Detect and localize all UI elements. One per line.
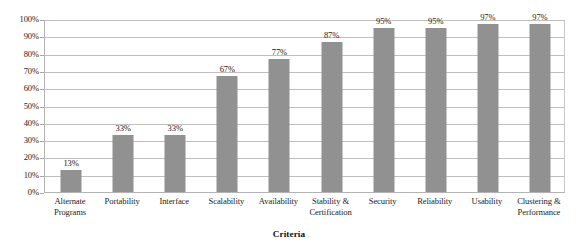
x-category-label: Interface — [148, 196, 200, 207]
bar[interactable] — [61, 170, 82, 192]
y-tick-label: 20% — [24, 153, 39, 162]
x-category-label-line: Interface — [148, 196, 200, 207]
x-category-label: AlternatePrograms — [44, 196, 96, 217]
bar-slot: 95% — [410, 21, 462, 192]
bar[interactable] — [269, 59, 290, 192]
bar-slot: 67% — [201, 21, 253, 192]
x-category-label: Security — [357, 196, 409, 207]
x-category-label-line: Scalability — [200, 196, 252, 207]
bar-slot: 33% — [97, 21, 149, 192]
x-category-label: Scalability — [200, 196, 252, 207]
bar-slot: 95% — [358, 21, 410, 192]
bar-slot: 97% — [462, 21, 514, 192]
y-tick-label: 80% — [24, 50, 39, 59]
bar-value-label: 87% — [324, 31, 339, 40]
x-category-label: Stability &Certification — [305, 196, 357, 217]
bar-value-label: 13% — [63, 159, 78, 168]
bar-slot: 13% — [45, 21, 97, 192]
bar[interactable] — [321, 42, 342, 193]
y-tick-label: 90% — [24, 32, 39, 41]
x-category-label-line: Programs — [44, 207, 96, 218]
bar-slot: 87% — [306, 21, 358, 192]
y-tick-label: 100% — [20, 15, 39, 24]
y-tick-label: 40% — [24, 119, 39, 128]
y-tick-label: 0% — [28, 188, 39, 197]
x-category-label: Availability — [252, 196, 304, 207]
y-axis: 0%10%20%30%40%50%60%70%80%90%100% — [0, 0, 44, 252]
bar[interactable] — [477, 24, 498, 192]
bar-value-label: 33% — [116, 124, 131, 133]
bar-value-label: 95% — [376, 17, 391, 26]
bar-value-label: 33% — [168, 124, 183, 133]
bar-chart: 0%10%20%30%40%50%60%70%80%90%100% 13%33%… — [0, 0, 578, 252]
x-axis-category-labels: AlternateProgramsPortabilityInterfaceSca… — [44, 196, 565, 230]
bar-value-label: 97% — [480, 13, 495, 22]
y-tick-label: 70% — [24, 67, 39, 76]
x-category-label-line: Alternate — [44, 196, 96, 207]
x-category-label: Clustering &Performance — [513, 196, 565, 217]
y-tick-label: 30% — [24, 136, 39, 145]
x-category-label-line: Performance — [513, 207, 565, 218]
y-tick-mark — [40, 193, 44, 194]
y-tick-label: 10% — [24, 171, 39, 180]
bar-value-label: 77% — [272, 48, 287, 57]
x-category-label-line: Availability — [252, 196, 304, 207]
bar-value-label: 95% — [428, 17, 443, 26]
x-category-label-line: Certification — [305, 207, 357, 218]
bar-slot: 77% — [253, 21, 305, 192]
bar-value-label: 67% — [220, 65, 235, 74]
plot-area: 13%33%33%67%77%87%95%95%97%97% — [44, 20, 565, 193]
x-category-label: Portability — [96, 196, 148, 207]
bar-value-label: 97% — [532, 13, 547, 22]
bar[interactable] — [113, 135, 134, 192]
bar[interactable] — [217, 76, 238, 192]
y-tick-label: 60% — [24, 84, 39, 93]
bar[interactable] — [373, 28, 394, 192]
x-category-label-line: Stability & — [305, 196, 357, 207]
bar[interactable] — [529, 24, 550, 192]
bars-layer: 13%33%33%67%77%87%95%95%97%97% — [45, 21, 564, 192]
bar-slot: 33% — [149, 21, 201, 192]
x-category-label-line: Security — [357, 196, 409, 207]
bar[interactable] — [425, 28, 446, 192]
x-category-label-line: Portability — [96, 196, 148, 207]
x-axis-title: Criteria — [0, 229, 578, 239]
bar[interactable] — [165, 135, 186, 192]
y-tick-label: 50% — [24, 102, 39, 111]
x-category-label: Usability — [461, 196, 513, 207]
x-category-label: Reliability — [409, 196, 461, 207]
x-category-label-line: Reliability — [409, 196, 461, 207]
x-category-label-line: Usability — [461, 196, 513, 207]
bar-slot: 97% — [514, 21, 566, 192]
x-category-label-line: Clustering & — [513, 196, 565, 207]
